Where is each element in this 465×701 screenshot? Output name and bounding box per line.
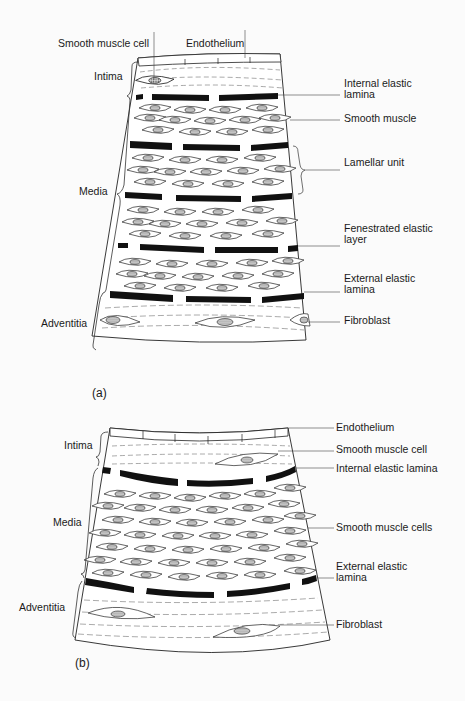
label-b-fibroblast: Fibroblast	[336, 619, 382, 630]
label-b-adventitia: Adventitia	[19, 602, 65, 613]
label-b-internal-elastic-lamina: Internal elastic lamina	[336, 463, 438, 474]
label-a-smooth-muscle: Smooth muscle	[344, 113, 416, 124]
label-b-endothelium: Endothelium	[336, 422, 394, 433]
label-a-fibroblast: Fibroblast	[344, 315, 390, 326]
label-a-smooth-muscle-cell: Smooth muscle cell	[58, 38, 149, 49]
label-a-lamellar-unit: Lamellar unit	[344, 157, 404, 168]
label-a-endothelium: Endothelium	[186, 38, 244, 49]
label-b-intima: Intima	[64, 440, 93, 451]
label-b-smooth-muscle-cell: Smooth muscle cell	[336, 444, 427, 455]
label-b-external-elastic-lamina-line2: lamina	[336, 572, 367, 583]
artery-wall-diagrams	[0, 0, 465, 701]
label-a-media: Media	[79, 186, 108, 197]
label-b-smooth-muscle-cells: Smooth muscle cells	[336, 522, 432, 533]
panel-label-a: (a)	[92, 386, 107, 400]
label-a-intima: Intima	[94, 71, 123, 82]
label-a-adventitia: Adventitia	[41, 318, 87, 329]
panel-label-b: (b)	[75, 656, 90, 670]
label-a-external-elastic-lamina-line2: lamina	[344, 284, 375, 295]
label-a-fenestrated-line2: layer	[344, 234, 367, 245]
figure-b	[73, 428, 334, 653]
label-b-media: Media	[53, 517, 82, 528]
label-a-internal-elastic-lamina-line2: lamina	[344, 89, 375, 100]
figure-a	[92, 30, 340, 350]
